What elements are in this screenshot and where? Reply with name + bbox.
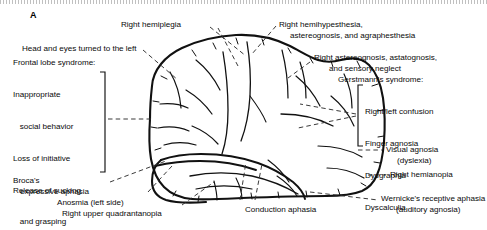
label-anosmia-left-side: Anosmia (left side) xyxy=(57,198,124,209)
figure-panel-a: A xyxy=(0,0,487,230)
sulcus-inf-frontal xyxy=(192,126,218,144)
label-head-and-eyes-turned-left: Head and eyes turned to the left xyxy=(22,44,137,55)
label-auditory-agnosia: (auditory agnosia) xyxy=(396,205,460,216)
list-item: Inappropriate xyxy=(13,90,81,101)
sulcus-frontal-4 xyxy=(164,143,196,145)
label-right-upper-quadrantanopia: Right upper quadrantanopia xyxy=(62,209,162,220)
label-right-hemiplegia: Right hemiplegia xyxy=(121,20,181,31)
label-conduction-aphasia: Conduction aphasia xyxy=(245,205,316,216)
sulcus-occipital-3 xyxy=(327,168,364,178)
label-visual-agnosia-dyslexia: (dyslexia) xyxy=(397,156,431,167)
sulcus-frontal-3 xyxy=(158,127,189,131)
sulcus-central-branch xyxy=(250,96,266,122)
leader-conduction-aphasia xyxy=(240,162,246,200)
label-visual-agnosia: Visual agnosia xyxy=(386,145,438,156)
leader-gerstmann-a xyxy=(300,104,356,114)
sulcus-temporal-br2 xyxy=(214,181,217,200)
sulcus-sup-frontal xyxy=(196,60,220,90)
bracket-frontal-lobe-syndrome xyxy=(100,72,105,172)
leader-right-hemiplegia-a xyxy=(210,27,246,56)
sulcus-postcentral xyxy=(282,50,288,98)
sulcus-occipital-1 xyxy=(331,96,354,126)
sulcus-frontal-2 xyxy=(160,104,188,108)
label-brocas-expressive-aphasia: expressive aphasia xyxy=(20,187,89,198)
list-item: social behavior xyxy=(13,122,81,133)
sulcus-parietal-1 xyxy=(296,76,320,106)
label-gerstmanns-syndrome-heading: Gerstmann's syndrome: xyxy=(338,75,423,86)
bracket-gerstmann xyxy=(358,85,363,146)
sulcus-precentral xyxy=(222,52,228,154)
label-wernickes-receptive-aphasia: Wernicke's receptive aphasia xyxy=(381,194,485,205)
label-frontal-lobe-syndrome-heading: Frontal lobe syndrome: xyxy=(13,58,95,69)
label-brocas-line1: Broca's xyxy=(13,176,40,187)
sulcus-intraparietal xyxy=(281,114,333,126)
leader-astereognosis xyxy=(288,62,310,78)
list-item: Right/left confusion xyxy=(365,107,433,118)
temporal-lobe-outline xyxy=(161,154,305,199)
label-right-hemihypesthesia-line1: Right hemihypesthesia, xyxy=(279,20,363,31)
sulcus-occipital-2 xyxy=(318,146,362,157)
label-right-astereognosis-line1: Right astereognosis, astatognosis, xyxy=(314,53,437,64)
sulcus-mid-temporal xyxy=(196,186,252,189)
sulcus-temporal-br4 xyxy=(268,160,289,182)
label-right-hemianopia: Right hemianopia xyxy=(390,170,453,181)
label-right-astereognosis-line2: and sensory neglect xyxy=(329,64,401,75)
label-right-hemihypesthesia-line2: astereognosis, and agraphesthesia xyxy=(290,31,415,42)
list-item: Loss of initiative xyxy=(13,154,81,165)
sulcus-mid-frontal xyxy=(186,90,212,114)
leader-gerstmann-b xyxy=(298,116,356,128)
sulcus-central xyxy=(241,42,250,141)
